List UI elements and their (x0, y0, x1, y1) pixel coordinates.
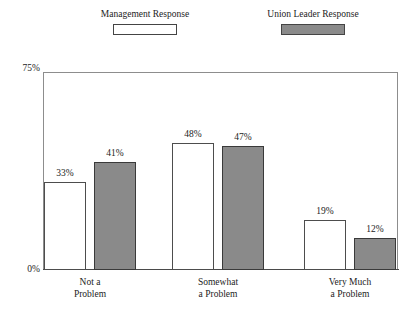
x-axis-label-line1: Very Much (305, 277, 395, 289)
bar-value-management-very-much-a-problem: 19% (304, 206, 346, 217)
bar-union-not-a-problem[interactable] (94, 162, 136, 270)
bar-management-somewhat-a-problem[interactable] (172, 143, 214, 270)
bar-management-not-a-problem[interactable] (44, 182, 86, 270)
bars-layer: 33% 41% 48% 47% 19% 12% (0, 0, 417, 317)
bar-value-union-somewhat-a-problem: 47% (222, 132, 264, 143)
x-axis-label-line1: Somewhat (173, 277, 263, 289)
bar-value-management-not-a-problem: 33% (44, 168, 86, 179)
bar-management-very-much-a-problem[interactable] (304, 220, 346, 270)
bar-value-union-not-a-problem: 41% (94, 148, 136, 159)
x-axis-label-somewhat-a-problem: Somewhat a Problem (173, 277, 263, 300)
x-axis-label-line1: Not a (45, 277, 135, 289)
bar-value-union-very-much-a-problem: 12% (354, 224, 396, 235)
x-axis-label-very-much-a-problem: Very Much a Problem (305, 277, 395, 300)
bar-union-somewhat-a-problem[interactable] (222, 146, 264, 270)
bar-value-management-somewhat-a-problem: 48% (172, 129, 214, 140)
x-axis-label-not-a-problem: Not a Problem (45, 277, 135, 300)
x-axis-label-line2: a Problem (173, 289, 263, 301)
x-axis-label-line2: a Problem (305, 289, 395, 301)
bar-union-very-much-a-problem[interactable] (354, 238, 396, 270)
x-axis-label-line2: Problem (45, 289, 135, 301)
